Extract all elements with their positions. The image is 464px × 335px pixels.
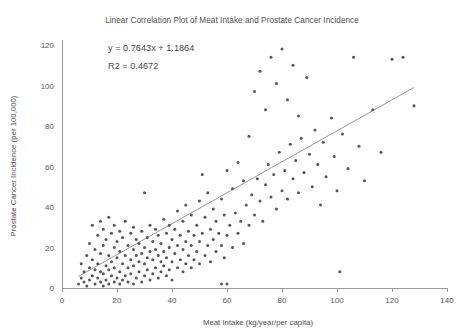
data-point xyxy=(132,282,135,285)
y-tick-label: 20 xyxy=(45,244,54,253)
data-point xyxy=(107,268,110,271)
data-point xyxy=(173,228,176,231)
x-tick-label: 0 xyxy=(60,296,65,305)
data-point xyxy=(157,234,160,237)
data-point xyxy=(151,240,154,243)
data-point xyxy=(341,133,344,136)
data-point xyxy=(259,199,262,202)
data-point xyxy=(223,214,226,217)
data-point xyxy=(300,137,303,140)
x-axis-ticks: 020406080100120140 xyxy=(60,288,454,305)
y-tick-label: 60 xyxy=(45,163,54,172)
data-point xyxy=(363,179,366,182)
data-point xyxy=(228,224,231,227)
data-point xyxy=(270,195,273,198)
data-point xyxy=(182,220,185,223)
data-point xyxy=(105,238,108,241)
data-point xyxy=(116,256,119,259)
data-point xyxy=(303,171,306,174)
data-point xyxy=(413,104,416,107)
data-point xyxy=(171,238,174,241)
data-point xyxy=(264,183,267,186)
data-point xyxy=(157,254,160,257)
data-point xyxy=(336,189,339,192)
data-point xyxy=(190,244,193,247)
data-point xyxy=(94,282,97,285)
chart-canvas: Linear Correlation Plot of Meat Intake a… xyxy=(0,0,464,335)
data-point xyxy=(333,155,336,158)
data-point xyxy=(283,169,286,172)
data-point xyxy=(124,274,127,277)
data-point xyxy=(380,151,383,154)
data-point xyxy=(182,270,185,273)
data-point xyxy=(102,284,105,287)
data-point xyxy=(250,193,253,196)
data-point xyxy=(99,252,102,255)
data-point xyxy=(264,108,267,111)
x-axis-title: Meat Intake (kg/year/per capita) xyxy=(203,318,313,327)
x-tick-label: 80 xyxy=(278,296,287,305)
data-point xyxy=(138,242,141,245)
data-point xyxy=(140,252,143,255)
data-point xyxy=(113,266,116,269)
data-point xyxy=(173,252,176,255)
data-point xyxy=(179,258,182,261)
data-point xyxy=(118,270,121,273)
data-point xyxy=(110,274,113,277)
data-point xyxy=(99,220,102,223)
scatter-chart: Linear Correlation Plot of Meat Intake a… xyxy=(0,0,464,335)
data-point xyxy=(118,230,121,233)
data-point xyxy=(96,262,99,265)
data-point xyxy=(124,254,127,257)
data-point xyxy=(184,203,187,206)
data-point xyxy=(226,169,229,172)
data-point xyxy=(286,197,289,200)
x-tick-label: 40 xyxy=(168,296,177,305)
data-point xyxy=(212,208,215,211)
data-point xyxy=(116,240,119,243)
data-point xyxy=(83,270,86,273)
data-point xyxy=(129,232,132,235)
data-point xyxy=(107,254,110,257)
data-point xyxy=(154,228,157,231)
data-point xyxy=(138,260,141,263)
data-point xyxy=(190,266,193,269)
data-points xyxy=(77,48,416,288)
data-point xyxy=(171,260,174,263)
data-point xyxy=(267,163,270,166)
data-point xyxy=(237,161,240,164)
data-point xyxy=(160,260,163,263)
data-point xyxy=(176,244,179,247)
data-point xyxy=(281,48,284,51)
data-point xyxy=(270,56,273,59)
data-point xyxy=(149,224,152,227)
y-tick-label: 80 xyxy=(45,122,54,131)
data-point xyxy=(165,256,168,259)
data-point xyxy=(176,210,179,213)
data-point xyxy=(157,276,160,279)
data-point xyxy=(322,141,325,144)
data-point xyxy=(107,282,110,285)
data-point xyxy=(253,214,256,217)
data-point xyxy=(220,244,223,247)
data-point xyxy=(143,262,146,265)
data-point xyxy=(91,274,94,277)
data-point xyxy=(127,244,130,247)
data-point xyxy=(110,232,113,235)
data-point xyxy=(168,246,171,249)
x-tick-label: 140 xyxy=(440,296,454,305)
data-point xyxy=(226,234,229,237)
data-point xyxy=(127,280,130,283)
data-point xyxy=(91,224,94,227)
data-point xyxy=(121,278,124,281)
data-point xyxy=(231,246,234,249)
data-point xyxy=(94,268,97,271)
data-point xyxy=(154,266,157,269)
data-point xyxy=(358,145,361,148)
data-point xyxy=(140,280,143,283)
data-point xyxy=(190,214,193,217)
data-point xyxy=(314,129,317,132)
y-tick-label: 0 xyxy=(50,284,55,293)
y-tick-label: 100 xyxy=(41,82,55,91)
data-point xyxy=(311,185,314,188)
